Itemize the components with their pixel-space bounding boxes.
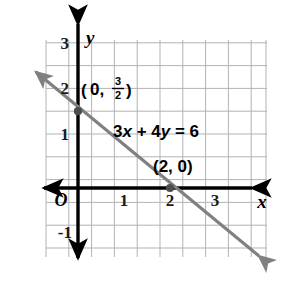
equation-equals-6: = 6 <box>170 122 199 141</box>
point-y-intercept <box>74 107 82 115</box>
y-tick-label-3: 3 <box>61 34 70 53</box>
coordinate-graph-figure: 3 2 1 -1 1 2 3 O y x ( 0, 3 2 ) 3x + 4y … <box>0 0 284 287</box>
y-intercept-fraction-numerator: 3 <box>115 75 121 87</box>
y-intercept-open-paren: ( <box>81 81 87 100</box>
annotation-equation: 3x + 4y = 6 <box>113 122 199 141</box>
origin-label: O <box>55 190 68 210</box>
annotation-x-intercept-coordinates: (2, 0) <box>153 157 193 176</box>
y-intercept-close-paren: ) <box>126 81 132 100</box>
x-tick-label-3: 3 <box>211 191 220 210</box>
y-axis-label: y <box>84 27 95 48</box>
y-tick-label-1: 1 <box>61 125 70 144</box>
svg-text:3x + 4y = 6: 3x + 4y = 6 <box>113 122 199 141</box>
graph-canvas: 3 2 1 -1 1 2 3 O y x ( 0, 3 2 ) 3x + 4y … <box>0 0 284 287</box>
y-tick-label-2: 2 <box>61 79 70 98</box>
x-axis-label: x <box>256 191 267 212</box>
x-tick-label-2: 2 <box>166 191 175 210</box>
equation-plus-4: + 4 <box>132 122 161 141</box>
y-intercept-fraction-denominator: 2 <box>115 89 121 101</box>
equation-coefficient-3: 3 <box>113 122 122 141</box>
y-intercept-x-value: 0, <box>90 80 104 99</box>
y-tick-label-negative-1: -1 <box>58 223 72 242</box>
x-tick-label-1: 1 <box>120 191 129 210</box>
